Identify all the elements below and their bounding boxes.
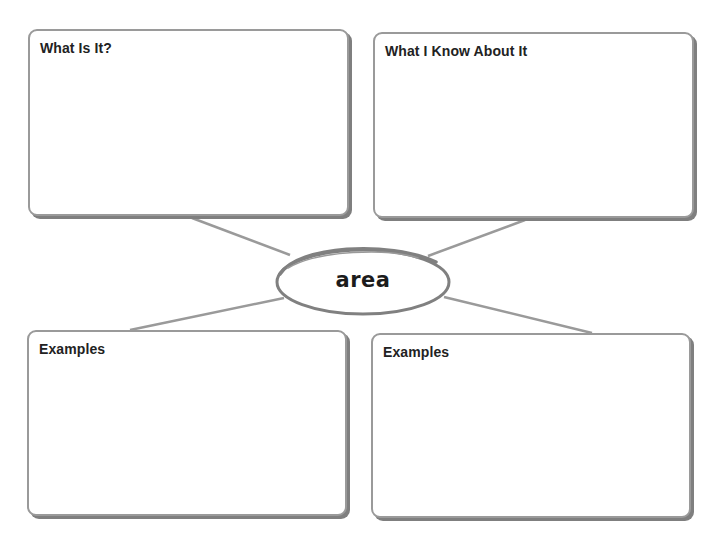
connector-bottom-right (444, 297, 592, 333)
box-title-examples-right: Examples (383, 344, 449, 360)
box-title-what-i-know: What I Know About It (385, 43, 527, 59)
box-what-is-it: What Is It? (28, 29, 349, 216)
box-examples-right: Examples (371, 333, 691, 518)
center-oval: area (268, 238, 458, 318)
center-term: area (268, 268, 458, 292)
box-title-what-is-it: What Is It? (40, 40, 112, 56)
connector-bottom-left (130, 298, 284, 330)
box-title-examples-left: Examples (39, 341, 105, 357)
box-examples-left: Examples (27, 330, 347, 516)
write-area-what-is-it[interactable] (38, 63, 339, 206)
box-what-i-know: What I Know About It (373, 32, 694, 218)
write-area-examples-right[interactable] (381, 367, 681, 508)
write-area-examples-left[interactable] (37, 364, 337, 506)
write-area-what-i-know[interactable] (383, 66, 684, 208)
